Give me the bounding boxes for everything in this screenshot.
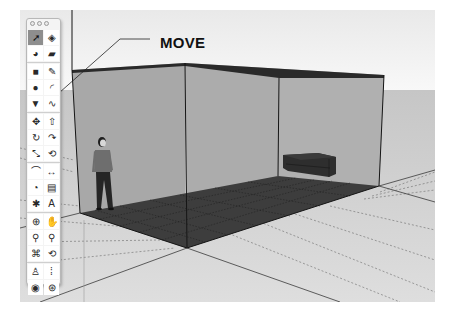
pan-tool-button[interactable]: ✋ (44, 214, 59, 229)
protractor-tool-button[interactable]: ◔ (28, 180, 43, 195)
move-tool-button[interactable]: ✥ (28, 114, 43, 129)
scale-tool-button[interactable]: ⤡ (28, 146, 43, 161)
tape-measure-icon: ⌒ (31, 167, 41, 177)
tools-palette: ➚◈◕▰■✎●◜▼∿✥⇧↻↷⤡⟲⌒↔◔▤✱A⊕✋⚲⚲⌘⟲♙⁞◉⊛ (26, 18, 61, 285)
eye-icon: ◉ (31, 283, 40, 293)
zoom-window-icon: ⚲ (48, 233, 55, 243)
zoom-icon: ⚲ (32, 233, 39, 243)
protractor-icon: ◔ (32, 183, 38, 193)
freehand-icon: ∿ (48, 99, 56, 109)
section-plane-tool-button[interactable]: ⊛ (44, 280, 59, 295)
eraser-icon: ▰ (48, 49, 56, 59)
follow-me-tool-button[interactable]: ↷ (44, 130, 59, 145)
circle-tool-button[interactable]: ● (28, 80, 43, 95)
tool-group-3: ✥⇧↻↷⤡⟲ (27, 113, 60, 163)
arc-tool-button[interactable]: ◜ (44, 80, 59, 95)
dimension-icon: ↔ (47, 167, 57, 177)
tape-measure-tool-button[interactable]: ⌒ (28, 164, 43, 179)
previous-view-icon: ⟲ (48, 249, 56, 259)
rotate-tool-button[interactable]: ↻ (28, 130, 43, 145)
push-pull-tool-button[interactable]: ⇧ (44, 114, 59, 129)
3d-text-tool-button[interactable]: A (44, 196, 59, 211)
pan-hand-icon: ✋ (46, 217, 58, 227)
push-pull-icon: ⇧ (48, 117, 56, 127)
tool-group-2: ■✎●◜▼∿ (27, 63, 60, 113)
axes-icon: ✱ (32, 199, 40, 209)
component-box-icon: ◈ (48, 33, 56, 43)
section-plane-icon: ⊛ (48, 283, 56, 293)
tool-group-1: ➚◈◕▰ (27, 29, 60, 63)
select-tool-button[interactable]: ➚ (28, 30, 43, 45)
axes-tool-button[interactable]: ✱ (28, 196, 43, 211)
scene-canvas[interactable] (20, 10, 435, 302)
look-around-tool-button[interactable]: ◉ (28, 280, 43, 295)
circle-icon: ● (32, 83, 38, 93)
minimize-window-button[interactable] (37, 21, 42, 26)
line-tool-button[interactable]: ✎ (44, 64, 59, 79)
zoom-window-tool-button[interactable]: ⚲ (44, 230, 59, 245)
text-label-icon: ▤ (47, 183, 56, 193)
paint-bucket-tool-button[interactable]: ◕ (28, 46, 43, 61)
text-tool-button[interactable]: ▤ (44, 180, 59, 195)
follow-me-icon: ↷ (48, 133, 56, 143)
zoom-window-button[interactable] (44, 21, 49, 26)
previous-view-tool-button[interactable]: ⟲ (44, 246, 59, 261)
orbit-tool-button[interactable]: ⊕ (28, 214, 43, 229)
make-component-tool-button[interactable]: ◈ (44, 30, 59, 45)
walk-tool-button[interactable]: ⁞ (44, 264, 59, 279)
3d-viewport[interactable] (20, 10, 435, 302)
close-window-button[interactable] (30, 21, 35, 26)
polygon-icon: ▼ (31, 99, 41, 109)
offset-icon: ⟲ (48, 149, 56, 159)
dimension-tool-button[interactable]: ↔ (44, 164, 59, 179)
palette-titlebar[interactable] (27, 19, 60, 29)
eraser-tool-button[interactable]: ▰ (44, 46, 59, 61)
orbit-icon: ⊕ (32, 217, 40, 227)
arrow-cursor-icon: ➚ (32, 33, 40, 43)
position-camera-tool-button[interactable]: ♙ (28, 264, 43, 279)
3d-text-icon: A (48, 199, 55, 209)
callout-move-label: MOVE (160, 34, 205, 51)
footprints-icon: ⁞ (50, 267, 53, 277)
tool-group-5: ⊕✋⚲⚲⌘⟲ (27, 213, 60, 263)
move-arrows-icon: ✥ (32, 117, 40, 127)
zoom-extents-icon: ⌘ (31, 249, 41, 259)
polygon-tool-button[interactable]: ▼ (28, 96, 43, 111)
pencil-icon: ✎ (48, 67, 56, 77)
rectangle-icon: ■ (32, 67, 38, 77)
tool-group-6: ♙⁞◉⊛ (27, 263, 60, 296)
tool-group-4: ⌒↔◔▤✱A (27, 163, 60, 213)
rectangle-tool-button[interactable]: ■ (28, 64, 43, 79)
zoom-extents-tool-button[interactable]: ⌘ (28, 246, 43, 261)
rotate-icon: ↻ (32, 133, 40, 143)
zoom-tool-button[interactable]: ⚲ (28, 230, 43, 245)
position-camera-icon: ♙ (31, 267, 40, 277)
offset-tool-button[interactable]: ⟲ (44, 146, 59, 161)
scale-icon: ⤡ (32, 149, 40, 159)
freehand-tool-button[interactable]: ∿ (44, 96, 59, 111)
arc-icon: ◜ (50, 83, 54, 93)
paint-bucket-icon: ◕ (32, 49, 38, 59)
